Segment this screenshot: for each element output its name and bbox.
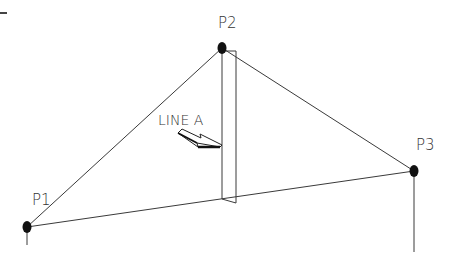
truss-diagram: P1 P2 P3 LINE A	[0, 0, 459, 269]
point-p3	[410, 165, 419, 177]
edge-p2-p3	[222, 48, 414, 171]
point-p2	[218, 42, 227, 54]
label-p3: P3	[416, 136, 435, 154]
line-a-member	[222, 48, 236, 203]
arrow-icon	[178, 129, 222, 147]
label-p1: P1	[32, 191, 51, 209]
diagram-canvas: P1 P2 P3 LINE A	[0, 0, 459, 269]
label-line-a: LINE A	[158, 112, 204, 128]
point-p1	[23, 221, 32, 233]
edge-p1-p3	[27, 171, 414, 227]
label-p2: P2	[218, 14, 237, 32]
